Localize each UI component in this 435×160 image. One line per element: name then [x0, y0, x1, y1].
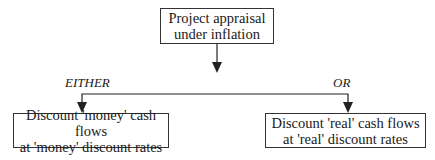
money-node: Discount 'money' cash flows at 'money' d…: [13, 113, 169, 148]
real-line2: at 'real' discount rates: [266, 131, 425, 147]
arrow-down-icon: [343, 102, 353, 113]
root-line1: Project appraisal: [161, 10, 273, 26]
either-label: EITHER: [65, 75, 110, 91]
root-line2: under inflation: [161, 26, 273, 42]
arrow-down-icon: [212, 62, 222, 73]
real-line1: Discount 'real' cash flows: [266, 115, 425, 131]
real-node: Discount 'real' cash flows at 'real' dis…: [265, 113, 426, 148]
root-node: Project appraisal under inflation: [160, 8, 274, 44]
or-label: OR: [333, 75, 350, 91]
money-line1: Discount 'money' cash flows: [14, 107, 168, 139]
money-line2: at 'money' discount rates: [14, 139, 168, 155]
